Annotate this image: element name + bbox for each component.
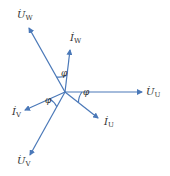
label-U_U: ·UU xyxy=(146,87,160,99)
phasor-U_W xyxy=(29,28,65,92)
label-I_W: ·IW xyxy=(70,33,81,45)
angle-label-v: φ xyxy=(45,96,51,105)
angle-arc-u xyxy=(78,92,82,102)
label-I_U: ·IU xyxy=(104,117,114,129)
angle-label-w: φ xyxy=(61,69,67,78)
label-U_V: ·UV xyxy=(17,156,31,168)
angle-label-u: φ xyxy=(83,88,89,97)
label-U_W: ·UW xyxy=(17,10,33,22)
phasor-I_U xyxy=(65,92,98,118)
label-I_V: ·IV xyxy=(12,107,21,119)
phasor-diagram: ·UW ·IW ·UU ·IU ·IV ·UV φ φ φ xyxy=(0,0,170,176)
